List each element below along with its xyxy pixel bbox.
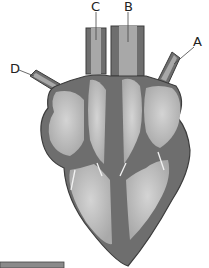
vessel-b: [111, 26, 144, 76]
label-a: A: [193, 35, 202, 48]
label-c: C: [91, 0, 100, 13]
heart-diagram: [0, 0, 209, 268]
label-d: D: [10, 62, 20, 75]
vessel-a: [158, 52, 180, 84]
scale-bar: [0, 262, 64, 268]
label-b: B: [124, 0, 133, 13]
chamber-left-atrium: [49, 91, 84, 156]
